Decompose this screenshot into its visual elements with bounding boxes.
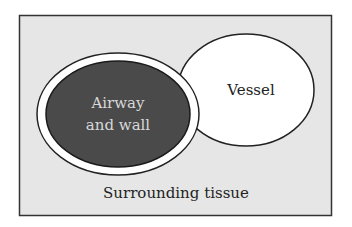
airway-inner-ellipse [46, 61, 190, 167]
airway-label-line1: Airway [90, 94, 145, 112]
surrounding-tissue-label: Surrounding tissue [103, 184, 249, 202]
vessel-label: Vessel [226, 81, 275, 99]
diagram-canvas: Airway and wall Vessel Surrounding tissu… [0, 0, 352, 227]
airway-label-line2: and wall [86, 116, 151, 134]
